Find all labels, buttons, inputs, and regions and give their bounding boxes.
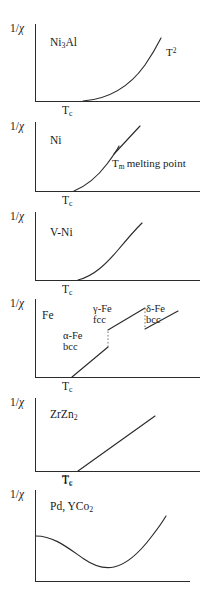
panel-v-ni-axis-label: 1/χ — [10, 210, 24, 222]
panel-pd-yco2-tc-tick: Tc — [62, 473, 73, 487]
panel-ni3al-axis-label: 1/χ — [10, 22, 24, 34]
panel-ni-axis-label: 1/χ — [10, 120, 24, 132]
panel-fe-gamma-phase-label: γ-Fefcc — [93, 304, 112, 326]
panel-fe-material-label: Fe — [42, 309, 54, 321]
panel-pd-yco2: 1/χ Tc Pd, YCo2 — [0, 476, 204, 606]
panel-fe: 1/χ Fe γ-Fefcc α-Febcc δ-Febcc Tc — [0, 285, 204, 382]
panel-zrzn2-plot — [0, 382, 204, 476]
panel-zrzn2: 1/χ ZrZn2 Tc — [0, 382, 204, 476]
panel-pd-yco2-axis-label: 1/χ — [10, 488, 24, 500]
panel-fe-plot — [0, 285, 204, 382]
panel-ni3al-t-squared-annotation: T2 — [166, 47, 176, 59]
figure-inverse-susceptibility: 1/χ Ni3Al T2 Tc 1/χ Ni Tm melting point … — [0, 0, 204, 606]
panel-ni-melting-point-annotation: Tm melting point — [112, 158, 186, 171]
panel-pd-yco2-material-label: Pd, YCo2 — [50, 500, 93, 514]
panel-zrzn2-axis-label: 1/χ — [10, 396, 24, 408]
panel-ni3al-material-label: Ni3Al — [50, 36, 77, 50]
panel-v-ni-material-label: V-Ni — [50, 226, 73, 238]
panel-pd-yco2-plot — [0, 476, 204, 606]
panel-ni-plot — [0, 104, 204, 196]
panel-ni: 1/χ Ni Tm melting point Tc — [0, 104, 204, 196]
panel-ni3al: 1/χ Ni3Al T2 Tc — [0, 0, 204, 104]
panel-zrzn2-material-label: ZrZn2 — [50, 408, 78, 422]
panel-fe-axis-label: 1/χ — [10, 297, 24, 309]
panel-fe-delta-phase-label: δ-Febcc — [146, 304, 165, 326]
panel-v-ni-plot — [0, 196, 204, 285]
panel-fe-alpha-phase-label: α-Febcc — [63, 331, 83, 353]
panel-v-ni: 1/χ V-Ni Tc — [0, 196, 204, 285]
panel-ni-material-label: Ni — [50, 134, 62, 146]
